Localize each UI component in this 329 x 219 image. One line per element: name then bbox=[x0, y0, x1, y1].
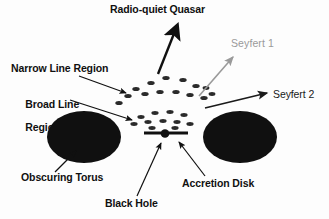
black-hole bbox=[161, 129, 170, 138]
narrow-line-region-clouds bbox=[115, 76, 215, 105]
label-seyfert-2: Seyfert 2 bbox=[273, 89, 314, 100]
label-obscuring-torus: Obscuring Torus bbox=[21, 172, 103, 183]
label-broad-line-region-line1: Broad Line bbox=[25, 98, 79, 110]
label-broad-line-region-line2: Region bbox=[25, 121, 60, 133]
label-black-hole: Black Hole bbox=[105, 198, 158, 209]
obscuring-torus-right bbox=[203, 111, 277, 163]
broad-line-region-clouds bbox=[130, 110, 193, 130]
label-radio-quiet-quasar: Radio-quiet Quasar bbox=[110, 4, 205, 15]
narrow-line-region-leader bbox=[79, 76, 126, 93]
agn-diagram-canvas: Radio-quiet Quasar Seyfert 1 Seyfert 2 N… bbox=[0, 0, 329, 219]
label-accretion-disk: Accretion Disk bbox=[182, 178, 254, 189]
black-hole-leader bbox=[137, 143, 161, 196]
quasar-beam-arrow bbox=[158, 26, 177, 74]
label-narrow-line-region: Narrow Line Region bbox=[11, 63, 108, 74]
accretion-disk-leader bbox=[179, 142, 205, 176]
label-seyfert-1: Seyfert 1 bbox=[231, 38, 274, 49]
seyfert1-beam-arrow bbox=[199, 57, 233, 96]
label-broad-line-region: Broad Line Region bbox=[14, 88, 79, 145]
